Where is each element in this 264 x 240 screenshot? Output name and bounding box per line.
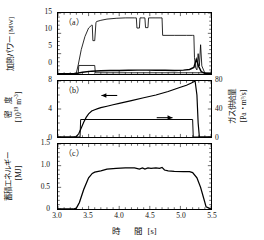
xtick-3p0: 3.0: [45, 212, 69, 220]
panel-c-tag: （c）: [64, 147, 84, 158]
panel-b-tag: （b）: [64, 84, 84, 95]
panel-b-ytick-8: 8: [30, 76, 52, 84]
xaxis-label: 時 間 [s]: [57, 224, 212, 236]
xtick-4p5: 4.5: [138, 212, 162, 220]
panel-a-ylabel-main: 加熱パワー: [6, 36, 15, 71]
panel-a-ytick-10: 10: [30, 25, 52, 33]
panel-b-right-ylabel-main: ガス供給量: [228, 77, 237, 135]
panel-a-ytick-5: 5: [30, 42, 52, 50]
panel-b-unit-mid: m: [14, 99, 23, 107]
xaxis-label-main: 時 間: [112, 226, 145, 236]
panel-a-ytick-15: 15: [30, 8, 52, 16]
figure-three-panel-timeseries: （a） 15 10 5 0 加熱パワー [MW] （b） 8 4 0 80 40…: [0, 0, 264, 240]
panel-c-ytick-0p5: 0.5: [28, 183, 50, 191]
xaxis-label-unit: [s]: [148, 226, 157, 236]
panel-c-ytick-1p0: 1.0: [28, 161, 50, 169]
xtick-5p0: 5.0: [169, 212, 193, 220]
panel-b-unit-exp2: -3: [13, 94, 19, 99]
panel-b-right-ylabel-unit: [Pa・m³/s]: [239, 77, 248, 135]
panel-b-ylabel-unit: [1019 m-3]: [14, 81, 23, 133]
xtick-4p0: 4.0: [107, 212, 131, 220]
panel-c-ylabel-main: 蓄積エネルギー: [4, 144, 13, 208]
panel-a-ylabel-unit: [MW]: [7, 17, 15, 35]
panel-a-tag: （a）: [64, 16, 84, 27]
xtick-3p5: 3.5: [76, 212, 100, 220]
panel-a-ylabel: 加熱パワー [MW]: [6, 13, 16, 75]
panel-b-unit-base: [10: [14, 112, 23, 122]
panel-a-ytick-0: 0: [30, 59, 52, 67]
panel-b-right-ytick-0: 0: [215, 134, 235, 142]
panel-b-unit-end: ]: [14, 92, 23, 95]
panel-b-unit-exp1: 19: [13, 107, 19, 113]
panel-c-ylabel-unit: [MJ]: [14, 141, 23, 205]
panel-c-ytick-1p5: 1.5: [28, 139, 50, 147]
panel-b-ytick-4: 4: [30, 105, 52, 113]
xtick-5p5: 5.5: [200, 212, 224, 220]
